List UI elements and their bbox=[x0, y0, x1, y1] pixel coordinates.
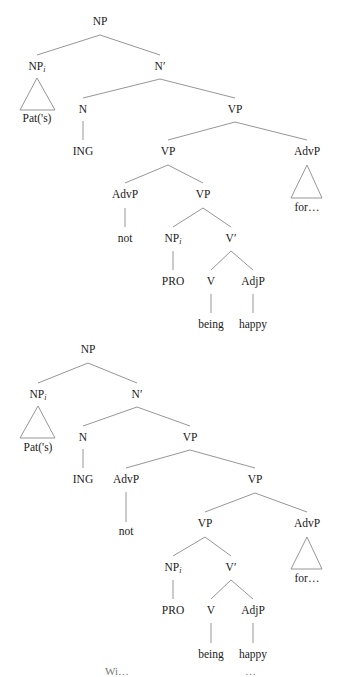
edge bbox=[173, 537, 205, 556]
node-label: AdvP bbox=[112, 188, 138, 200]
footer-left: Wi… bbox=[105, 665, 129, 677]
edge bbox=[205, 493, 255, 512]
triangle-icon bbox=[20, 406, 55, 438]
edge bbox=[100, 35, 160, 55]
node-label: VP bbox=[228, 103, 243, 115]
edge bbox=[211, 580, 231, 599]
edge bbox=[137, 407, 190, 426]
node-label: AdjP bbox=[241, 604, 265, 617]
edge bbox=[160, 79, 235, 98]
node-label: happy bbox=[239, 648, 267, 661]
node-label: NPi bbox=[165, 561, 182, 575]
footer-fragment: Wi… … bbox=[0, 665, 338, 675]
syntax-tree-2: NP NPi N′ Pat('s) N VP ING AdvP VP not V… bbox=[0, 330, 338, 670]
node-label: N′ bbox=[132, 388, 143, 400]
edge bbox=[255, 493, 307, 512]
triangle-icon bbox=[291, 165, 322, 198]
node-label: VP bbox=[248, 473, 263, 485]
node-label: N bbox=[79, 431, 88, 443]
edge bbox=[37, 35, 100, 55]
footer-right: … bbox=[245, 665, 256, 677]
triangle-icon bbox=[291, 537, 322, 569]
node-label: being bbox=[198, 648, 224, 661]
node-label: PRO bbox=[162, 604, 184, 616]
node-label: V bbox=[207, 275, 216, 287]
node-label: VP bbox=[183, 431, 198, 443]
edge bbox=[205, 537, 231, 556]
node-label: AdjP bbox=[241, 275, 265, 288]
edge bbox=[203, 208, 231, 227]
edge bbox=[231, 580, 253, 599]
node-label: Pat('s) bbox=[24, 441, 53, 454]
edge bbox=[211, 251, 231, 270]
node-label: AdvP bbox=[294, 145, 320, 157]
edge bbox=[173, 208, 203, 227]
edge bbox=[88, 363, 137, 383]
edge bbox=[235, 122, 307, 140]
node-label: PRO bbox=[162, 275, 184, 287]
node-label: NPi bbox=[30, 388, 47, 402]
node-label: N bbox=[79, 103, 88, 115]
node-label: V bbox=[207, 604, 216, 616]
syntax-tree-1: NP NPi N′ Pat('s) N VP ING VP AdvP for… … bbox=[0, 0, 338, 335]
node-label: VP bbox=[196, 188, 211, 200]
node-label: VP bbox=[161, 145, 176, 157]
edge bbox=[231, 251, 253, 270]
node-label: VP bbox=[198, 517, 213, 529]
node-label: N′ bbox=[155, 60, 166, 72]
node-label: AdvP bbox=[113, 473, 139, 485]
edge bbox=[168, 122, 235, 140]
node-label: not bbox=[119, 525, 135, 537]
edge bbox=[83, 79, 160, 98]
node-label: for… bbox=[295, 572, 320, 584]
node-label: V′ bbox=[226, 232, 237, 244]
node-label: AdvP bbox=[294, 517, 320, 529]
edge bbox=[168, 165, 203, 183]
node-label: NPi bbox=[29, 60, 46, 74]
node-label: NP bbox=[93, 15, 108, 27]
node-label: V′ bbox=[226, 561, 237, 573]
node-label: not bbox=[118, 232, 134, 244]
edge bbox=[190, 450, 255, 468]
edge bbox=[126, 450, 190, 468]
edge bbox=[125, 165, 168, 183]
edge bbox=[83, 407, 137, 426]
node-label: ING bbox=[73, 473, 93, 485]
node-label: Pat('s) bbox=[23, 112, 52, 125]
triangle-icon bbox=[20, 78, 55, 110]
edge bbox=[38, 363, 88, 383]
node-label: NPi bbox=[165, 232, 182, 246]
node-label: for… bbox=[295, 201, 320, 213]
node-label: ING bbox=[73, 145, 93, 157]
node-label: NP bbox=[81, 343, 96, 355]
